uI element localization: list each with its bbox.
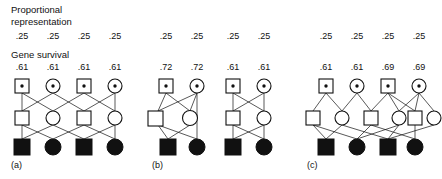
gen2-female-b-2[interactable]: [183, 111, 198, 126]
gen2-male-b-3[interactable]: [226, 111, 240, 125]
gen3-male-b-3[interactable]: [225, 139, 241, 155]
gen2-male-a-3[interactable]: [77, 111, 91, 125]
founder-dot-a-4: [113, 84, 116, 87]
founder-dot-a-1: [20, 84, 23, 87]
gen2-female-a-2[interactable]: [46, 111, 60, 125]
panel-b-generation2: [148, 111, 271, 127]
founder-dot-b-1: [164, 84, 167, 87]
founder-dot-b-3: [231, 84, 234, 87]
panel-b-lines: [158, 93, 264, 139]
pedigree-diagram: [0, 0, 442, 179]
gen2-male-c-3[interactable]: [364, 111, 378, 125]
gen2-male-b-1[interactable]: [148, 111, 163, 126]
panel-b-generation3: [160, 139, 272, 155]
gen3-male-a-3[interactable]: [76, 139, 92, 155]
panel-c-generation1: [319, 79, 426, 93]
gen2-female-c-6[interactable]: [427, 111, 441, 125]
founder-dot-a-2: [51, 84, 54, 87]
gen3-female-a-4[interactable]: [107, 139, 123, 155]
founder-dot-c-2: [355, 84, 358, 87]
panel-c-generation2: [306, 111, 441, 125]
gen3-female-b-2[interactable]: [189, 139, 205, 155]
founder-dot-c-1: [324, 84, 327, 87]
gen3-male-a-1[interactable]: [14, 139, 30, 155]
gen2-male-c-1[interactable]: [306, 111, 320, 125]
gen3-male-c-1[interactable]: [318, 139, 334, 155]
panel-a-generation1: [15, 79, 122, 93]
founder-dot-a-3: [82, 84, 85, 87]
gen3-female-b-4[interactable]: [256, 139, 272, 155]
gen3-female-c-2[interactable]: [349, 139, 365, 155]
gen2-female-b-4[interactable]: [257, 111, 271, 125]
founder-dot-b-4: [262, 84, 265, 87]
gen3-male-c-3[interactable]: [380, 139, 396, 155]
founder-dot-b-2: [195, 84, 198, 87]
gen3-female-a-2[interactable]: [45, 139, 61, 155]
panel-a-generation2: [15, 111, 122, 125]
panel-a-generation3: [14, 139, 123, 155]
gen2-female-c-2[interactable]: [335, 111, 349, 125]
gen2-female-a-4[interactable]: [108, 111, 122, 125]
gen2-male-c-5[interactable]: [408, 111, 422, 125]
panel-c-generation3: [318, 139, 423, 155]
gen3-female-c-4[interactable]: [407, 139, 423, 155]
gen3-male-b-1[interactable]: [160, 139, 176, 155]
gen2-female-c-4[interactable]: [392, 111, 406, 125]
founder-dot-c-4: [417, 84, 420, 87]
panel-b-generation1: [159, 79, 271, 93]
founder-dot-c-3: [386, 84, 389, 87]
gen2-male-a-1[interactable]: [15, 111, 29, 125]
panel-a-lines: [22, 93, 115, 139]
